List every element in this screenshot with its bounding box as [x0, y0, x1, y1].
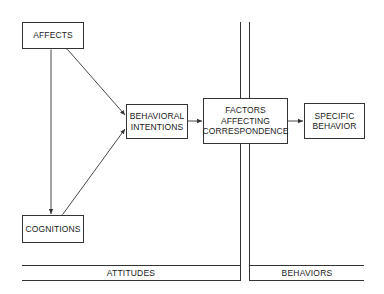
node-cognitions-label: COGNITIONS [26, 224, 81, 235]
node-factors-line2: AFFECTING [221, 116, 270, 127]
node-affects: AFFECTS [22, 22, 84, 49]
node-intentions-line1: BEHAVIORAL [130, 111, 185, 122]
node-behavior-line2: BEHAVIOR [312, 121, 356, 132]
node-intentions-line2: INTENTIONS [131, 122, 183, 133]
arrow-cognitions-intentions [63, 129, 125, 214]
node-factors-line3: CORRESPONDENCE [203, 126, 289, 137]
node-behavior-line1: SPECIFIC [314, 111, 354, 122]
node-factors-affecting-correspondence: FACTORS AFFECTING CORRESPONDENCE [203, 98, 288, 144]
region-attitudes-label: ATTITUDES [22, 268, 240, 278]
node-behavioral-intentions: BEHAVIORAL INTENTIONS [126, 104, 188, 139]
node-cognitions: COGNITIONS [22, 215, 84, 243]
arrow-affects-intentions [68, 50, 125, 115]
region-behaviors-label: BEHAVIORS [250, 268, 364, 278]
node-specific-behavior: SPECIFIC BEHAVIOR [304, 103, 365, 139]
node-factors-line1: FACTORS [225, 105, 266, 116]
node-affects-label: AFFECTS [33, 30, 72, 41]
